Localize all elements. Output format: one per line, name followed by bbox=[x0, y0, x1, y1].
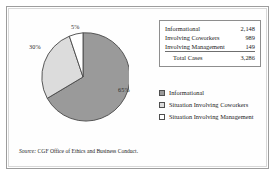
table-cell-label: Involving Coworkers bbox=[165, 33, 238, 42]
legend-item-informational: Informational bbox=[159, 87, 271, 99]
source-prefix: Source: bbox=[19, 148, 36, 154]
legend-item-label: Informational bbox=[169, 90, 204, 96]
table-cell-total-value: 3,286 bbox=[238, 52, 255, 62]
source-note: Source: CGF Office of Ethics and Busines… bbox=[19, 149, 138, 155]
table-cell-value: 149 bbox=[238, 42, 255, 52]
pie-svg bbox=[37, 31, 129, 123]
pie-label-management: 5% bbox=[71, 24, 79, 30]
table-row: Involving Coworkers 989 bbox=[165, 33, 255, 42]
source-text: CGF Office of Ethics and Business Conduc… bbox=[38, 148, 138, 154]
legend-swatch-icon bbox=[159, 114, 165, 120]
legend-item-management: Situation Involving Management bbox=[159, 111, 271, 123]
pie-chart: 5% 30% 65% bbox=[17, 17, 149, 137]
legend-item-coworkers: Situation Involving Coworkers bbox=[159, 99, 271, 111]
table-cell-value: 989 bbox=[238, 33, 255, 42]
table-cell-value: 2,148 bbox=[238, 24, 255, 33]
table-cell-label: Informational bbox=[165, 24, 238, 33]
chart-legend: Informational Situation Involving Cowork… bbox=[159, 87, 271, 123]
figure-frame: 5% 30% 65% Informational 2,148 Involving… bbox=[6, 6, 269, 169]
legend-swatch-icon bbox=[159, 102, 165, 108]
table-row: Informational 2,148 bbox=[165, 24, 255, 33]
legend-item-label: Situation Involving Coworkers bbox=[169, 102, 248, 108]
table-cell-label: Involving Management bbox=[165, 42, 238, 52]
data-table: Informational 2,148 Involving Coworkers … bbox=[159, 20, 261, 67]
table-row-total: Total Cases 3,286 bbox=[165, 52, 255, 62]
table-cell-total-label: Total Cases bbox=[165, 52, 238, 62]
pie-graphic bbox=[37, 31, 129, 123]
legend-swatch-icon bbox=[159, 90, 165, 96]
table-row: Involving Management 149 bbox=[165, 42, 255, 52]
pie-label-informational: 65% bbox=[118, 87, 130, 93]
legend-item-label: Situation Involving Management bbox=[169, 114, 254, 120]
pie-label-coworkers: 30% bbox=[29, 44, 41, 50]
figure-inner-border: 5% 30% 65% Informational 2,148 Involving… bbox=[8, 8, 267, 167]
